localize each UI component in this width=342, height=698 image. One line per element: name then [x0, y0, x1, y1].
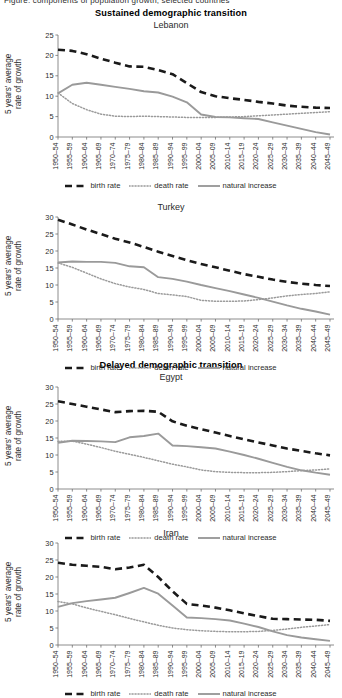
x-tick-label: 2015–19 — [238, 650, 245, 677]
x-tick-label: 2015–19 — [238, 324, 245, 351]
x-tick-label: 1950–54 — [52, 650, 59, 677]
y-tick-label: 25 — [45, 400, 53, 409]
series-line-birth-rate — [58, 220, 330, 286]
y-tick-label: 30 — [45, 383, 53, 392]
x-tick-label: 1960–64 — [81, 324, 88, 351]
x-tick-label: 1985–89 — [152, 650, 159, 677]
y-tick-label: 10 — [45, 607, 53, 616]
x-tick-label: 2015–19 — [238, 142, 245, 169]
axis-lines — [58, 35, 334, 137]
legend-swatch-death-icon — [129, 690, 151, 698]
legend-label: death rate — [154, 689, 188, 698]
axis-lines — [58, 217, 334, 319]
chart-title: Turkey — [0, 202, 342, 213]
x-tick-label: 2030–34 — [281, 324, 288, 351]
legend-item-birth[interactable]: birth rate — [65, 689, 120, 698]
chart-title: Lebanon — [0, 20, 342, 31]
chart-legend: birth ratedeath ratenatural increase — [0, 689, 342, 698]
x-tick-label: 2025–29 — [267, 142, 274, 169]
legend-swatch-natural-icon — [198, 364, 220, 372]
y-tick-label: 20 — [45, 247, 53, 256]
legend-label: natural increase — [223, 181, 277, 190]
y-tick-label: 5 — [49, 468, 53, 477]
y-tick-label: 10 — [45, 281, 53, 290]
y-tick-label: 0 — [49, 641, 53, 650]
x-tick-label: 1955–59 — [66, 494, 73, 521]
x-tick-label: 1950–54 — [52, 324, 59, 351]
x-tick-label: 1980–84 — [138, 324, 145, 351]
x-tick-label: 2040–44 — [310, 494, 317, 521]
legend-item-death[interactable]: death rate — [129, 181, 188, 190]
x-tick-label: 1965–69 — [95, 324, 102, 351]
legend-label: birth rate — [90, 181, 120, 190]
x-tick-label: 2015–19 — [238, 494, 245, 521]
x-tick-label: 1965–69 — [95, 650, 102, 677]
cropped-caption-text: Figure: components of population growth,… — [0, 0, 342, 5]
legend-label: death rate — [154, 363, 188, 372]
x-tick-label: 1990–94 — [167, 142, 174, 169]
legend-item-death[interactable]: death rate — [129, 689, 188, 698]
x-tick-label: 2030–34 — [281, 494, 288, 521]
chart-title: Egypt — [0, 372, 342, 383]
x-tick-label: 1995–99 — [181, 650, 188, 677]
x-tick-label: 1965–69 — [95, 494, 102, 521]
legend-label: natural increase — [223, 689, 277, 698]
x-tick-label: 2040–44 — [310, 650, 317, 677]
legend-item-natural[interactable]: natural increase — [198, 363, 277, 372]
x-tick-label: 2045–49 — [324, 650, 331, 677]
legend-label: birth rate — [90, 363, 120, 372]
legend-swatch-birth-icon — [65, 364, 87, 372]
x-tick-label: 1975–79 — [124, 324, 131, 351]
chart-plot: 0510152025301950–541955–591960–641965–69… — [0, 539, 342, 695]
x-tick-label: 2025–29 — [267, 494, 274, 521]
x-tick-label: 1980–84 — [138, 650, 145, 677]
x-tick-label: 2045–49 — [324, 324, 331, 351]
x-tick-label: 1975–79 — [124, 142, 131, 169]
x-tick-label: 1970–74 — [109, 142, 116, 169]
section-title-sustained: Sustained demographic transition — [0, 8, 342, 18]
legend-item-natural[interactable]: natural increase — [198, 689, 277, 698]
x-tick-label: 1955–59 — [66, 142, 73, 169]
x-tick-label: 2040–44 — [310, 324, 317, 351]
chart-plot: 05101520251950–541955–591960–641965–6919… — [0, 31, 342, 187]
legend-item-death[interactable]: death rate — [129, 363, 188, 372]
x-tick-label: 2000–04 — [195, 494, 202, 521]
x-tick-label: 2020–24 — [252, 324, 259, 351]
legend-item-birth[interactable]: birth rate — [65, 363, 120, 372]
series-line-natural-increase — [58, 262, 330, 315]
cropped-caption-strip: Figure: components of population growth,… — [0, 0, 342, 8]
series-line-birth-rate — [58, 50, 330, 108]
legend-item-natural[interactable]: natural increase — [198, 181, 277, 190]
y-tick-label: 15 — [45, 264, 53, 273]
y-tick-label: 25 — [45, 31, 53, 40]
x-tick-label: 2020–24 — [252, 142, 259, 169]
x-tick-label: 1995–99 — [181, 494, 188, 521]
x-tick-label: 2045–49 — [324, 142, 331, 169]
x-tick-label: 1980–84 — [138, 494, 145, 521]
x-tick-label: 1970–74 — [109, 494, 116, 521]
y-tick-label: 0 — [49, 485, 53, 494]
legend-item-birth[interactable]: birth rate — [65, 181, 120, 190]
series-line-natural-increase — [58, 83, 330, 135]
x-tick-label: 2045–49 — [324, 494, 331, 521]
y-tick-label: 20 — [45, 573, 53, 582]
x-tick-label: 1975–79 — [124, 650, 131, 677]
x-tick-label: 2030–34 — [281, 650, 288, 677]
chart-plot: 0510152025301950–541955–591960–641965–69… — [0, 213, 342, 369]
y-tick-label: 15 — [45, 71, 53, 80]
y-tick-label: 5 — [49, 298, 53, 307]
series-line-death-rate — [58, 263, 330, 301]
x-tick-label: 2035–39 — [295, 494, 302, 521]
x-tick-label: 1950–54 — [52, 494, 59, 521]
chart-title: Iran — [0, 528, 342, 539]
x-tick-label: 2020–24 — [252, 494, 259, 521]
y-tick-label: 30 — [45, 539, 53, 548]
x-tick-label: 2005–09 — [209, 650, 216, 677]
y-tick-label: 5 — [49, 112, 53, 121]
x-tick-label: 2035–39 — [295, 324, 302, 351]
x-tick-label: 2005–09 — [209, 142, 216, 169]
x-tick-label: 1980–84 — [138, 142, 145, 169]
x-tick-label: 2005–09 — [209, 324, 216, 351]
chart-panel-lebanon: Lebanon5 years' average rate of growth05… — [0, 20, 342, 31]
